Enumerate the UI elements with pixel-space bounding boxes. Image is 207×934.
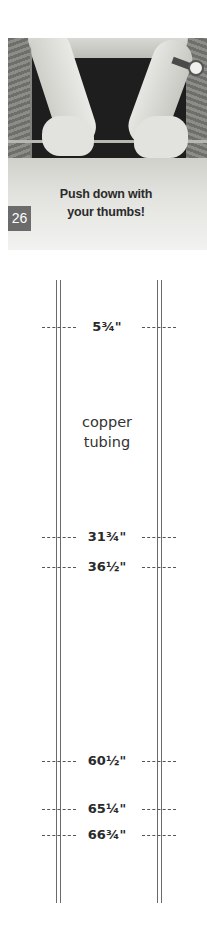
dashed-marker bbox=[42, 327, 76, 328]
part-label-line-1: copper bbox=[67, 412, 147, 432]
right-hand bbox=[134, 116, 188, 158]
dashed-marker bbox=[42, 809, 76, 810]
watch-icon bbox=[188, 60, 204, 76]
photo-caption: Push down with your thumbs! bbox=[40, 185, 172, 221]
caption-line-2: your thumbs! bbox=[40, 203, 172, 221]
left-hand bbox=[42, 116, 94, 156]
dashed-marker bbox=[42, 835, 76, 836]
dashed-marker bbox=[42, 761, 76, 762]
part-label: copper tubing bbox=[67, 412, 147, 452]
dashed-marker bbox=[142, 537, 176, 538]
dashed-marker bbox=[42, 567, 76, 568]
measurement-label: 60½" bbox=[72, 752, 142, 770]
measurement-label: 66¾" bbox=[72, 826, 142, 844]
dashed-marker bbox=[142, 327, 176, 328]
dashed-marker bbox=[142, 761, 176, 762]
dashed-marker bbox=[142, 809, 176, 810]
part-label-line-2: tubing bbox=[67, 432, 147, 452]
dashed-marker bbox=[142, 835, 176, 836]
measurement-label: 65¼" bbox=[72, 800, 142, 818]
dashed-marker bbox=[142, 567, 176, 568]
caption-line-1: Push down with bbox=[40, 185, 172, 203]
step-number-badge: 26 bbox=[8, 206, 31, 231]
measurement-label: 5¾" bbox=[72, 318, 142, 336]
dashed-marker bbox=[42, 537, 76, 538]
measurement-label: 36½" bbox=[72, 558, 142, 576]
measurement-label: 31¾" bbox=[72, 528, 142, 546]
